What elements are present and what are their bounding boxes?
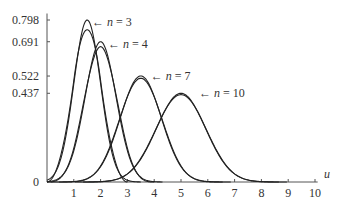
axes: 12345678910u00.4370.5220.6910.798: [12, 13, 330, 200]
series-annotation: ← n = 3: [92, 15, 132, 29]
curves: [47, 20, 287, 182]
y-tick-label: 0.691: [12, 35, 39, 49]
chart-container: 12345678910u00.4370.5220.6910.798 ← n = …: [0, 0, 349, 206]
x-tick-label: 1: [71, 186, 77, 200]
x-tick-label: 5: [178, 186, 184, 200]
x-tick-label: 4: [151, 186, 157, 200]
y-tick-label: 0: [33, 175, 39, 189]
x-tick-label: 7: [232, 186, 238, 200]
density-plot: 12345678910u00.4370.5220.6910.798 ← n = …: [0, 0, 349, 206]
arrow-left-icon: ←: [199, 86, 214, 100]
annotation-value: = 7: [172, 69, 191, 83]
density-curve-n10: [75, 95, 287, 182]
series-annotation: ← n = 4: [108, 37, 148, 51]
y-tick-label: 0.437: [12, 86, 39, 100]
x-tick-label: 9: [285, 186, 291, 200]
x-tick-label: 10: [309, 186, 321, 200]
x-tick-label: 3: [124, 186, 130, 200]
annotation-value: = 4: [129, 37, 148, 51]
arrow-left-icon: ←: [108, 37, 123, 51]
x-tick-label: 8: [258, 186, 264, 200]
x-tick-label: 6: [205, 186, 211, 200]
arrow-left-icon: ←: [151, 69, 166, 83]
annotation-value: = 10: [220, 86, 245, 100]
arrow-left-icon: ←: [92, 15, 107, 29]
y-tick-label: 0.522: [12, 69, 39, 83]
y-tick-label: 0.798: [12, 13, 39, 27]
series-annotation: ← n = 10: [199, 86, 245, 100]
x-tick-label: 2: [98, 186, 104, 200]
density-curve-n10: [83, 93, 279, 182]
x-axis-label: u: [324, 167, 330, 181]
series-annotation: ← n = 7: [151, 69, 191, 83]
annotation-value: = 3: [113, 15, 132, 29]
density-curve-n3: [47, 30, 127, 182]
